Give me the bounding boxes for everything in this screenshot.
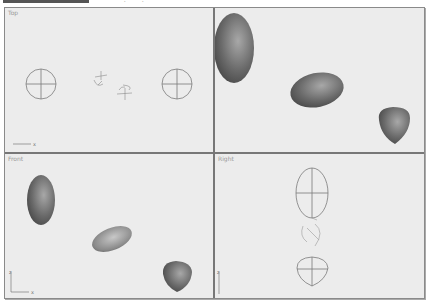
viewport-frame: Top x — [4, 7, 425, 299]
viewport-perspective[interactable] — [215, 8, 424, 152]
toolbar-glyph-2: ∙ — [142, 0, 144, 4]
axis-z-label-right: z — [217, 269, 220, 275]
egg-shape — [379, 107, 410, 144]
axis-x-label-front: x — [31, 289, 34, 295]
toolbar-glyph-1: ∙ — [124, 0, 126, 4]
top-view-wireframes: x — [5, 8, 213, 152]
title-bar-strip — [3, 0, 89, 3]
ellipsoid-flat — [287, 68, 347, 112]
right-view-wireframes: z — [215, 154, 424, 298]
perspective-view-shaded — [215, 8, 424, 152]
viewport-divider-horizontal[interactable] — [5, 152, 424, 154]
axis-z-label: z — [9, 269, 12, 275]
axis-x-label: x — [33, 141, 36, 147]
ellipsoid-tall — [215, 13, 254, 83]
viewport-right[interactable]: Right z — [215, 154, 424, 298]
viewport-top[interactable]: Top x — [5, 8, 213, 152]
viewport-front[interactable]: Front z x — [5, 154, 213, 298]
front-view-shaded: z x — [5, 154, 213, 298]
